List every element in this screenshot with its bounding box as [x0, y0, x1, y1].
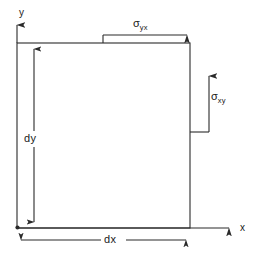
- sigma-yx-subscript: yx: [140, 23, 148, 32]
- element-rectangle: [17, 43, 190, 228]
- dx-dimension-label: dx: [104, 234, 117, 245]
- origin-node-dot: [15, 225, 19, 229]
- sigma-yx-symbol: σ: [133, 17, 140, 29]
- sigma-xy-label: σxy: [211, 91, 226, 102]
- diagram-canvas: [0, 0, 256, 257]
- dy-dimension-label: dy: [24, 133, 37, 144]
- sigma-xy-symbol: σ: [211, 90, 218, 102]
- stress-element-diagram: y x σyx σxy dy dx: [0, 0, 256, 257]
- sigma-yx-label: σyx: [133, 18, 148, 29]
- y-axis-label: y: [19, 8, 24, 18]
- x-axis-label: x: [240, 223, 245, 233]
- sigma-xy-subscript: xy: [218, 96, 226, 105]
